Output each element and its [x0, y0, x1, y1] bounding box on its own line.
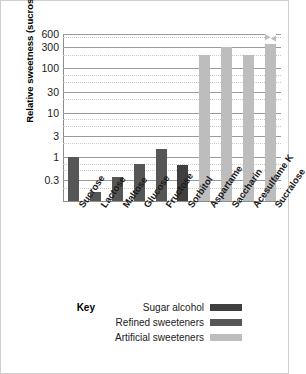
axis-break-icon [264, 32, 277, 45]
legend-item[interactable]: KeySugar alcohol [63, 301, 243, 314]
y-axis-tick-labels: 6003001003010310.3 [21, 34, 59, 201]
legend-color-swatch [210, 334, 242, 341]
legend-item[interactable]: Artificial sweeteners [63, 331, 243, 344]
y-axis-tick-label: 100 [25, 63, 59, 74]
bar-sucrose[interactable] [68, 157, 79, 201]
legend-item-label: Artificial sweeteners [101, 332, 210, 343]
gridline-major [63, 34, 281, 35]
legend-item[interactable]: Refined sweeteners [63, 316, 243, 329]
gridline-major [63, 47, 281, 48]
y-axis-tick-label: 1 [25, 152, 59, 163]
y-axis-tick-label: 600 [25, 29, 59, 40]
y-axis-tick-label: 3 [25, 130, 59, 141]
y-axis-tick-label: 300 [25, 42, 59, 53]
legend-key-title: Key [63, 302, 101, 313]
x-axis-tick-labels: SucroseLactoseMaltoseGlucoseFructoseSorb… [63, 204, 281, 274]
chart-figure: Relative sweetness (sucrose = 1) 6003001… [0, 0, 289, 374]
chart-legend: KeySugar alcoholRefined sweetenersArtifi… [63, 301, 243, 346]
legend-item-label: Refined sweeteners [101, 317, 210, 328]
legend-color-swatch [210, 319, 242, 326]
gridline-minor [63, 37, 281, 38]
y-axis-tick-label: 0.3 [25, 175, 59, 186]
legend-item-label: Sugar alcohol [101, 302, 210, 313]
legend-color-swatch [210, 304, 242, 311]
y-axis-tick-label: 30 [25, 86, 59, 97]
y-axis-tick-label: 10 [25, 107, 59, 118]
